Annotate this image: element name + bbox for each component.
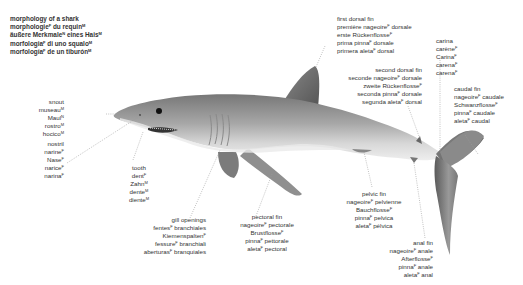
term-rest: branchiales — [173, 224, 206, 231]
term: museau — [39, 106, 61, 113]
term: nageoire — [454, 93, 478, 100]
eye — [156, 108, 162, 114]
term: pinna — [355, 214, 370, 221]
label-line: hocicoM — [39, 130, 64, 138]
gender-marker: M — [61, 106, 64, 111]
term: carène — [436, 45, 455, 52]
label-second-dorsal-fin: second dorsal finseconde nageoireF dorsa… — [348, 66, 422, 106]
term: caudal fin — [454, 85, 481, 92]
term: narice — [45, 164, 62, 171]
term: carena — [436, 61, 455, 68]
term: première nageoire — [337, 23, 387, 30]
term-rest: branchiali — [178, 240, 206, 247]
label-line: pectoral fin — [236, 213, 298, 221]
term-rest: dorsale — [400, 74, 422, 81]
label-line: aletaF anal — [390, 271, 433, 279]
label-line: first dorsal fin — [337, 15, 412, 23]
label-line: seconde nageoireF dorsale — [348, 74, 422, 82]
label-line: pelvic fin — [343, 190, 405, 198]
term: nostril — [47, 140, 64, 147]
gender-marker: F — [62, 148, 64, 153]
gender-marker: F — [454, 53, 456, 58]
gender-marker: M — [146, 196, 149, 201]
gender-marker: F — [420, 82, 422, 87]
term-rest: pectoral — [263, 245, 287, 252]
term: tooth — [132, 164, 146, 171]
term-rest: pelvica — [372, 214, 393, 221]
gender-marker: F — [495, 101, 497, 106]
term-rest: dorsale — [400, 90, 422, 97]
term: Afterflosse — [401, 255, 430, 262]
label-line: nageoireF pelvienne — [343, 198, 405, 206]
label-nostril: nostrilnarineFNaseFnariceFnarinaF — [44, 140, 64, 180]
caudal-fin-lower — [435, 156, 459, 255]
term: nageoire — [390, 247, 414, 254]
term-rest: dorsal — [403, 98, 422, 105]
gender-marker: F — [390, 31, 392, 36]
gender-marker: M — [61, 130, 64, 135]
term: second dorsal fin — [375, 66, 422, 73]
term: Maul — [48, 114, 61, 121]
term-rest: anale — [416, 247, 433, 254]
label-line: aletaF caudal — [454, 117, 504, 125]
term: carena — [436, 69, 455, 76]
label-carina: carinacarèneFCarinaFcarenaFcarenaF — [436, 37, 457, 77]
term: rostro — [45, 122, 61, 129]
label-line: gill openings — [144, 216, 206, 224]
term: Brustflosse — [250, 229, 281, 236]
term: prima pinna — [337, 39, 369, 46]
gender-marker: F — [390, 206, 392, 211]
term: aleta — [356, 222, 369, 229]
label-line: aletaF pélvica — [343, 222, 405, 230]
term: seconda pinna — [357, 90, 397, 97]
term: pectoral fin — [252, 213, 282, 220]
term-rest: caudal — [470, 117, 490, 124]
label-first-dorsal-fin: first dorsal finpremière nageoireF dorsa… — [337, 15, 412, 55]
term: aleta — [247, 245, 260, 252]
term-rest: caudale — [481, 93, 504, 100]
label-tooth: toothdentFZahnMdenteMdienteM — [120, 164, 158, 204]
pectoral-fin-base — [218, 152, 239, 178]
term: aleta — [454, 117, 467, 124]
term: pinna — [245, 237, 260, 244]
gender-marker: F — [62, 172, 64, 177]
pectoral-fin — [240, 148, 302, 196]
term: Nase — [47, 156, 61, 163]
term: erste Rückenflosse — [337, 31, 390, 38]
term: narina — [44, 172, 61, 179]
term: diente — [129, 196, 146, 203]
gender-marker: F — [62, 156, 64, 161]
gender-marker: F — [204, 232, 206, 237]
gender-marker: F — [455, 45, 457, 50]
label-line: primera aletaF dorsal — [337, 47, 412, 55]
label-snout: snoutmuseauMMaulNrostroMhocicoM — [39, 98, 64, 138]
term: gill openings — [172, 216, 206, 223]
term: hocico — [43, 130, 61, 137]
label-line: dentF — [120, 172, 158, 180]
term-rest: pelvienne — [373, 198, 401, 205]
label-line: nageoireF anale — [390, 247, 433, 255]
label-line: dienteM — [120, 196, 158, 204]
gender-marker: F — [62, 164, 64, 169]
gender-marker: F — [455, 61, 457, 66]
term-rest: dorsale — [372, 39, 394, 46]
gender-marker: F — [281, 229, 283, 234]
label-line: carenaF — [436, 69, 457, 77]
term: dente — [130, 188, 145, 195]
term: Schwanzflosse — [454, 101, 495, 108]
term: Bauchflosse — [356, 206, 390, 213]
gender-marker: M — [145, 188, 148, 193]
gender-marker: F — [431, 255, 433, 260]
term-rest: pectorale — [267, 221, 294, 228]
label-pelvic-fin: pelvic finnageoireF pelvienneBauchflosse… — [343, 190, 405, 230]
term: nageoire — [347, 198, 371, 205]
term: zweite Rückenflosse — [363, 82, 419, 89]
term-rest: caudale — [472, 109, 495, 116]
label-line: segunda aletaF dorsal — [348, 98, 422, 106]
term: segunda aleta — [362, 98, 401, 105]
term: Carina — [436, 53, 454, 60]
term: pinna — [399, 263, 414, 270]
label-line: nageoireF pectorale — [236, 221, 298, 229]
term: Zahn — [130, 180, 144, 187]
term: fessure — [155, 240, 175, 247]
